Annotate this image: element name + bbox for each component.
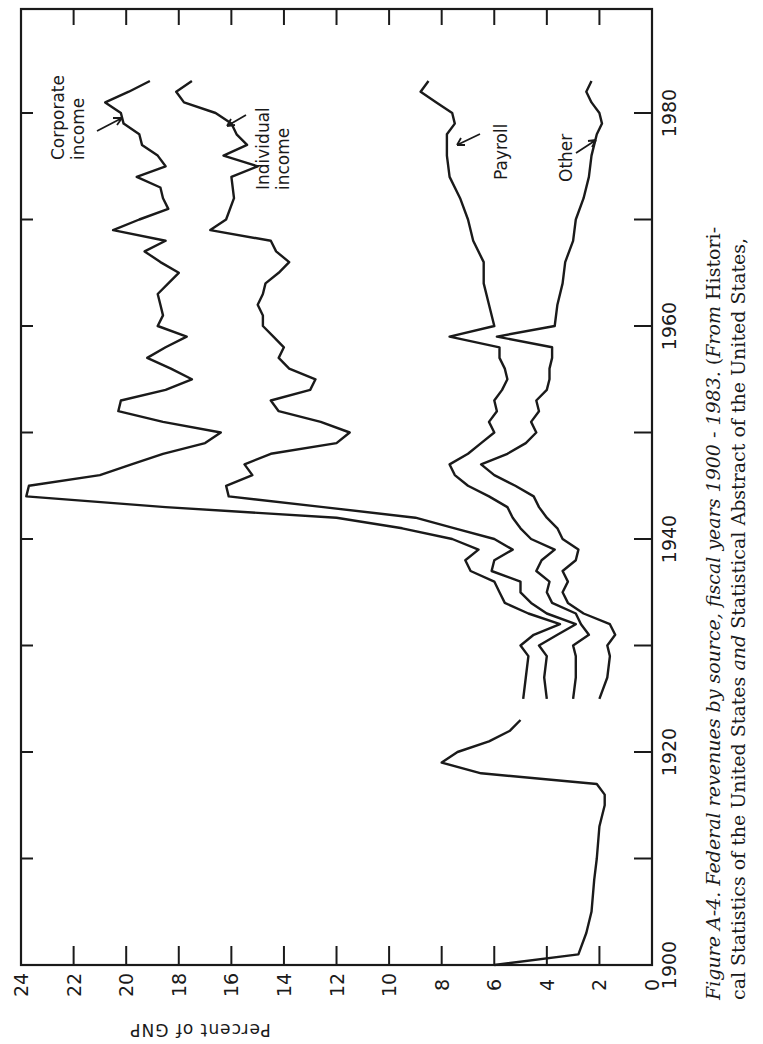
label-individual-income: Individualincome: [253, 107, 293, 190]
caption-line-2: cal Statistics of the United States and …: [727, 238, 749, 1000]
series-lines: [26, 81, 615, 965]
y-axis-title: Percent of GNP: [129, 1020, 270, 1040]
percent-tick-label: 6: [483, 979, 505, 991]
percent-tick-label: 8: [431, 979, 453, 991]
year-tick-label: 1900: [658, 941, 680, 989]
arrow-individual-income: [227, 115, 246, 126]
year-tick-label: 1960: [658, 302, 680, 350]
year-tick-label: 1920: [658, 728, 680, 776]
series-corporate-income: [26, 81, 560, 699]
percent-tick-label: 12: [326, 973, 348, 997]
percent-tick-label: 10: [378, 973, 400, 997]
caption-title: Figure A-4. Federal revenues by source, …: [702, 371, 724, 1001]
year-axis-ticks: 19001920194019601980: [21, 89, 680, 989]
percent-tick-label: 2: [588, 979, 610, 991]
percent-tick-label: 24: [10, 973, 32, 997]
arrow-payroll: [457, 134, 480, 145]
series-individual-income: [176, 81, 576, 699]
caption: Figure A-4. Federal revenues by source, …: [702, 227, 749, 1001]
year-tick-label: 1980: [658, 89, 680, 137]
percent-tick-label: 20: [115, 973, 137, 997]
series-total-pre-1925: [442, 720, 605, 965]
percent-tick-label: 14: [273, 973, 295, 997]
percent-tick-label: 16: [220, 973, 242, 997]
arrow-corporate-income: [97, 118, 122, 131]
year-tick-label: 1940: [658, 515, 680, 563]
label-payroll: Payroll: [491, 124, 511, 180]
percent-tick-label: 18: [168, 973, 190, 997]
label-other: Other: [556, 134, 576, 182]
label-corporate-income: Corporateincome: [48, 75, 88, 160]
federal-revenues-chart: 024681012141618202224 190019201940196019…: [0, 0, 763, 1044]
percent-tick-label: 22: [63, 973, 85, 997]
percent-tick-label: 4: [536, 979, 558, 991]
caption-line-1: Figure A-4. Federal revenues by source, …: [702, 227, 724, 1001]
